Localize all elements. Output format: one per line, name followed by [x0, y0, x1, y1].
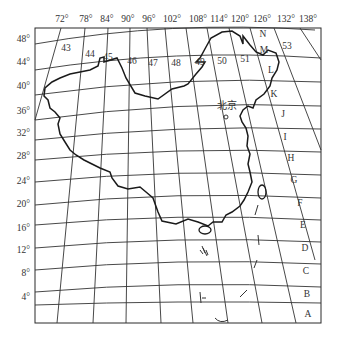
hainan-island: [199, 226, 211, 234]
row-letter: E: [300, 220, 306, 230]
zone-number: 47: [148, 58, 158, 68]
row-letter: F: [297, 198, 302, 208]
longitude-label: 102°: [163, 14, 181, 24]
latitude-label: 24°: [4, 176, 30, 186]
longitude-label: 72°: [55, 14, 68, 24]
zone-number: 51: [240, 54, 250, 64]
latitude-label: 48°: [4, 34, 30, 44]
zone-number: 45: [103, 52, 113, 62]
latitude-label: 20°: [4, 199, 30, 209]
latitude-label: 12°: [4, 245, 30, 255]
longitude-label: 138°: [299, 14, 317, 24]
longitude-label: 126°: [253, 14, 271, 24]
zone-number: 44: [85, 49, 95, 59]
latitude-label: 32°: [4, 128, 30, 138]
row-letter: J: [281, 109, 285, 119]
zone-number: 50: [217, 56, 227, 66]
row-letter: K: [271, 89, 278, 99]
row-letter: N: [260, 29, 267, 39]
latitude-label: 44°: [4, 57, 30, 67]
taiwan-island: [258, 185, 266, 199]
row-letter: I: [283, 132, 286, 142]
longitude-label: 78°: [79, 14, 92, 24]
longitude-label: 108°: [189, 14, 207, 24]
row-letter: M: [260, 45, 268, 55]
latitude-label: 36°: [4, 106, 30, 116]
zone-number: 43: [61, 43, 71, 53]
latitude-label: 40°: [4, 81, 30, 91]
sea-boundary-marks: [200, 205, 259, 322]
longitude-label: 132°: [277, 14, 295, 24]
beijing-marker: [224, 115, 228, 119]
row-letter: L: [268, 65, 274, 75]
row-letter: C: [303, 266, 309, 276]
latitude-label: 4°: [4, 292, 30, 302]
row-letter: H: [288, 153, 295, 163]
latitude-label: 28°: [4, 151, 30, 161]
longitude-label: 84°: [100, 14, 113, 24]
zone-number: 48: [171, 58, 181, 68]
longitude-label: 96°: [142, 14, 155, 24]
beijing-label: 北京: [217, 101, 237, 111]
longitude-label: 120°: [231, 14, 249, 24]
row-letter: G: [291, 175, 298, 185]
zone-number: 53: [282, 41, 292, 51]
row-letter: D: [302, 243, 309, 253]
zone-number: 46: [127, 56, 137, 66]
latitude-label: 16°: [4, 223, 30, 233]
latitude-label: 8°: [4, 268, 30, 278]
row-letter: A: [305, 309, 312, 319]
zone-number: 49: [195, 57, 205, 67]
longitude-label: 90°: [121, 14, 134, 24]
longitude-label: 114°: [210, 14, 228, 24]
row-letter: B: [304, 289, 310, 299]
